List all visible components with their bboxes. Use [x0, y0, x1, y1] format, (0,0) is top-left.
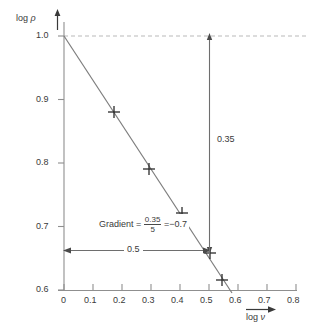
x-tick-label-4: 0.3 — [142, 296, 155, 305]
gradient-label: Gradient — [99, 220, 134, 229]
x-axis-ticks — [64, 284, 296, 290]
y-axis-title: log ρ — [16, 14, 36, 23]
rise-value-label: 0.35 — [215, 134, 237, 145]
y-axis-arrow-icon — [55, 9, 61, 30]
rise-arrow — [207, 33, 212, 254]
run-value-label: 0.5 — [124, 245, 143, 254]
gradient-numerator: 0.35 — [144, 215, 162, 225]
best-fit-line — [64, 36, 232, 293]
y-tick-label-1: 1.0 — [36, 31, 49, 40]
y-axis-title-log: log — [16, 13, 28, 23]
y-tick-label-3: 0.8 — [36, 158, 49, 167]
x-tick-label-8: 0.7 — [258, 296, 271, 305]
gradient-denominator: 5 — [144, 225, 162, 234]
gradient-annotation: Gradient = 0.355 =−0.7 — [97, 214, 189, 235]
x-tick-label-1: 0 — [61, 296, 66, 305]
y-axis-title-symbol: ρ — [31, 13, 36, 23]
data-point-marker — [108, 106, 120, 118]
x-tick-label-6: 0.5 — [200, 296, 213, 305]
y-tick-label-5: 0.6 — [36, 285, 49, 294]
x-tick-label-5: 0.4 — [171, 296, 184, 305]
gradient-fraction: 0.355 — [144, 215, 162, 234]
y-tick-label-2: 0.9 — [36, 95, 49, 104]
x-axis-title-log: log — [246, 312, 258, 322]
x-tick-label-7: 0.6 — [229, 296, 242, 305]
y-axis-ticks — [58, 36, 64, 290]
x-axis-title-symbol: ν — [261, 312, 266, 322]
x-axis-title: log ν — [246, 313, 265, 322]
y-tick-label-4: 0.7 — [36, 222, 49, 231]
x-tick-label-9: 0.8 — [287, 296, 300, 305]
x-tick-label-3: 0.2 — [113, 296, 126, 305]
gradient-result: −0.7 — [169, 220, 187, 229]
x-tick-label-2: 0.1 — [84, 296, 97, 305]
